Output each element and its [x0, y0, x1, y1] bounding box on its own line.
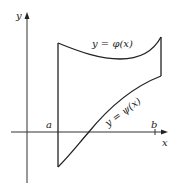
- region-outline: [58, 37, 161, 167]
- region-diagram: y x a b y = φ(x) y = ψ(x): [0, 0, 178, 191]
- x-axis-label: x: [162, 137, 168, 148]
- x-axis-arrow-icon: [161, 130, 168, 135]
- lower-curve-label: y = ψ(x): [102, 95, 143, 129]
- y-axis: [25, 12, 30, 183]
- y-axis-label: y: [15, 10, 22, 21]
- upper-curve-label: y = φ(x): [91, 38, 133, 49]
- bound-b-label: b: [151, 119, 157, 130]
- y-axis-arrow-icon: [25, 12, 30, 19]
- bound-a-label: a: [46, 119, 52, 130]
